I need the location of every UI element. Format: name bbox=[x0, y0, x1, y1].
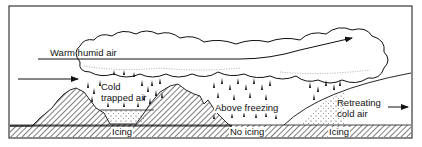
label-cold: Cold bbox=[101, 82, 121, 92]
diagram-canvas bbox=[0, 0, 422, 147]
label-icing-left: Icing bbox=[111, 127, 133, 137]
label-retreating: Retreating bbox=[337, 98, 381, 108]
label-cold-air: cold air bbox=[337, 109, 368, 119]
label-warm-humid-air: Warm humid air bbox=[50, 48, 117, 58]
label-no-icing: No icing bbox=[229, 127, 265, 137]
label-above-freezing: Above freezing bbox=[214, 103, 279, 113]
label-icing-right: Icing bbox=[328, 127, 350, 137]
icing-diagram: Warm humid air Cold trapped air Above fr… bbox=[0, 0, 422, 147]
ground-strip bbox=[10, 125, 411, 137]
label-trapped-air: trapped air bbox=[101, 93, 146, 103]
